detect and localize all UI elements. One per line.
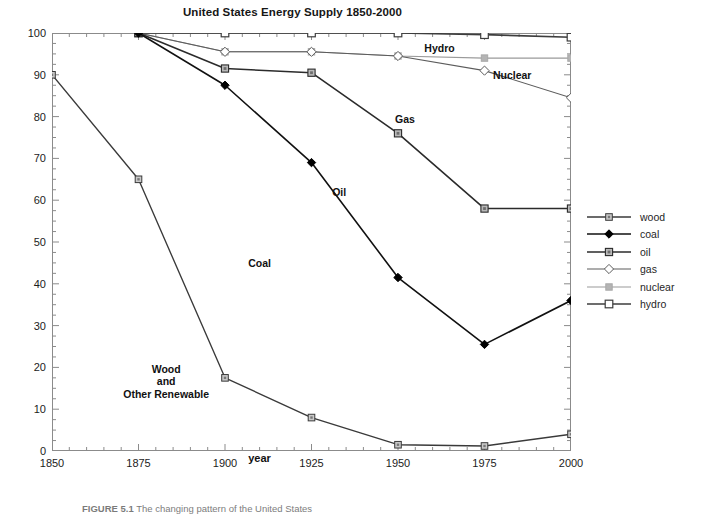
legend-item-oil[interactable]: oil (586, 243, 702, 261)
legend-marker-oil-icon (586, 245, 632, 259)
y-tick-label: 80 (4, 111, 46, 123)
gas-band-label: Gas (395, 113, 415, 125)
legend-item-wood[interactable]: wood (586, 208, 702, 226)
figure-caption: FIGURE 5.1 The changing pattern of the U… (82, 503, 312, 514)
figure-number: FIGURE 5.1 (82, 503, 134, 514)
chart-legend: woodcoaloilgasnuclearhydro (586, 208, 702, 313)
figure-caption-text: The changing pattern of the United State… (136, 503, 312, 514)
coal-band-label: Coal (248, 257, 271, 269)
legend-item-coal[interactable]: coal (586, 226, 702, 244)
series-nuclear (135, 33, 571, 61)
legend-label-hydro: hydro (640, 298, 666, 310)
x-axis-title: year (0, 452, 519, 464)
y-tick-label: 40 (4, 278, 46, 290)
y-tick-label: 10 (4, 403, 46, 415)
series-hydro (135, 33, 571, 41)
legend-label-wood: wood (640, 211, 665, 223)
legend-item-nuclear[interactable]: nuclear (586, 278, 702, 296)
y-tick-label: 90 (4, 69, 46, 81)
legend-item-gas[interactable]: gas (586, 261, 702, 279)
chart-container: United States Energy Supply 1850-2000 01… (0, 0, 705, 516)
y-tick-label: 60 (4, 194, 46, 206)
legend-label-nuclear: nuclear (640, 281, 674, 293)
oil-band-label: Oil (332, 186, 346, 198)
legend-marker-nuclear-icon (586, 280, 632, 294)
legend-label-oil: oil (640, 246, 651, 258)
legend-marker-hydro-icon (586, 297, 632, 311)
y-tick-label: 50 (4, 236, 46, 248)
chart-title: United States Energy Supply 1850-2000 (0, 6, 585, 18)
hydro-band-label: Hydro (424, 41, 454, 53)
y-tick-label: 100 (4, 27, 46, 39)
x-tick-label: 2000 (559, 457, 583, 469)
y-tick-label: 30 (4, 320, 46, 332)
wood-band-label: Wood and Other Renewable (123, 363, 209, 400)
y-tick-label: 20 (4, 361, 46, 373)
legend-marker-coal-icon (586, 227, 632, 241)
legend-marker-gas-icon (586, 262, 632, 276)
plot-area: 0102030405060708090100185018751900192519… (52, 33, 571, 451)
legend-item-hydro[interactable]: hydro (586, 296, 702, 314)
legend-label-gas: gas (640, 263, 657, 275)
y-tick-label: 70 (4, 152, 46, 164)
legend-marker-wood-icon (586, 210, 632, 224)
nuclear-band-label: Nuclear (493, 69, 532, 81)
series-oil (135, 33, 571, 212)
legend-label-coal: coal (640, 228, 659, 240)
